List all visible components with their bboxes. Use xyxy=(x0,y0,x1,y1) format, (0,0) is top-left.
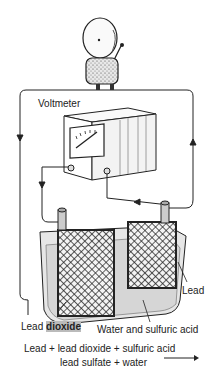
lead-dioxide-word: dioxide xyxy=(46,321,81,332)
equation-line-2: lead sulfate + water xyxy=(60,357,147,368)
voltmeter-icon xyxy=(64,108,156,180)
electric-bell-icon xyxy=(83,18,124,90)
battery-cell xyxy=(40,201,186,324)
voltmeter-label: Voltmeter xyxy=(38,98,80,109)
lead-label: Lead xyxy=(182,285,204,296)
electrolyte-label: Water and sulfuric acid xyxy=(97,324,198,335)
lead-dioxide-label: Lead dioxide xyxy=(21,321,81,332)
reaction-arrow-icon xyxy=(164,355,199,361)
battery-diagram xyxy=(0,0,219,376)
equation-line-1: Lead + lead dioxide + sulfuric acid xyxy=(24,343,175,354)
lead-dioxide-prefix: Lead xyxy=(21,321,43,332)
